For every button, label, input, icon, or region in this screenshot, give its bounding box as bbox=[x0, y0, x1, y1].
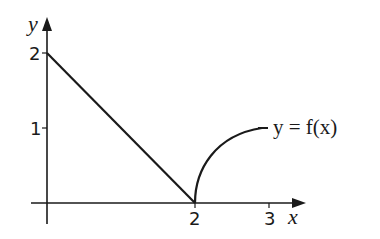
line-segment bbox=[47, 53, 195, 203]
tick-label-y1: 1 bbox=[30, 118, 41, 139]
x-axis-label: x bbox=[287, 204, 298, 229]
y-axis-label: y bbox=[26, 11, 38, 36]
curve-segment bbox=[195, 128, 262, 203]
y-axis-arrow-icon bbox=[42, 17, 52, 31]
graph: y x 2 1 2 3 y = f(x) bbox=[0, 0, 380, 239]
curve-label: y = f(x) bbox=[273, 115, 337, 139]
tick-label-y2: 2 bbox=[29, 43, 40, 64]
tick-label-x2: 2 bbox=[189, 208, 200, 229]
tick-label-x3: 3 bbox=[264, 208, 275, 229]
